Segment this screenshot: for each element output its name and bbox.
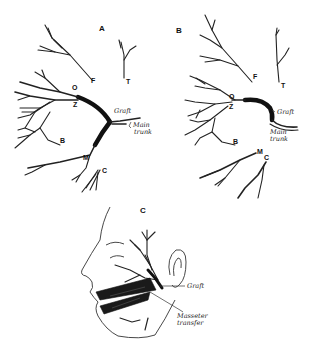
ear-outline <box>169 250 186 288</box>
panel-a-label-z: Z <box>73 101 78 108</box>
panel-a-label-c: C <box>102 167 107 174</box>
panel-a-graft-annotation: Graft <box>114 107 132 115</box>
panel-c: C Graft <box>82 206 209 338</box>
panel-b-main-trunk-annotation-line2: trunk <box>270 135 288 143</box>
panel-b-frontal-branch <box>200 15 252 82</box>
panel-b-label-b: B <box>233 138 238 145</box>
panel-a: A F T <box>15 24 152 192</box>
panel-b-cervical-branch <box>238 162 266 198</box>
panel-b: B F T O Z <box>176 15 298 198</box>
panel-a-main-trunk-annotation-line2: trunk <box>134 128 152 136</box>
panel-a-label-f: F <box>91 77 96 84</box>
panel-c-label: C <box>140 206 146 215</box>
panel-a-cervical-branch <box>82 170 100 192</box>
panel-a-graft-segment <box>78 97 110 145</box>
panel-b-label-o: O <box>229 93 235 100</box>
panel-b-zygomatic-branches <box>185 76 235 135</box>
panel-a-zygomatic-branches <box>15 70 78 130</box>
panel-b-label-t: T <box>281 82 286 89</box>
panel-b-mandibular-branch <box>200 153 256 186</box>
panel-c-graft-annotation: Graft <box>187 282 205 290</box>
panel-a-label-t: T <box>126 78 131 85</box>
panel-b-label-m: M <box>257 148 263 155</box>
panel-b-graft-annotation: Graft <box>277 108 295 116</box>
masseter-transfer-muscle <box>96 278 156 314</box>
panel-a-temporal-branch <box>119 40 136 78</box>
panel-a-label-b: B <box>60 137 65 144</box>
panel-b-label: B <box>176 26 182 35</box>
panel-b-label-f: F <box>253 73 258 80</box>
panel-c-nerve-branches <box>115 230 158 330</box>
panel-a-mandibular-branch <box>25 145 95 182</box>
panel-a-label-m: M <box>83 154 89 161</box>
panel-b-label-c: C <box>264 154 269 161</box>
face-profile-outline <box>82 207 156 338</box>
panel-c-masseter-annotation-line2: transfer <box>177 319 204 327</box>
panel-b-graft-segment <box>245 100 272 120</box>
facial-nerve-graft-diagram: A F T <box>0 0 312 348</box>
panel-a-frontal-branch <box>38 25 92 80</box>
panel-a-label-o: O <box>72 84 78 91</box>
panel-b-label-z: Z <box>229 103 234 110</box>
panel-a-label: A <box>99 24 105 33</box>
panel-b-temporal-branch <box>276 28 289 82</box>
